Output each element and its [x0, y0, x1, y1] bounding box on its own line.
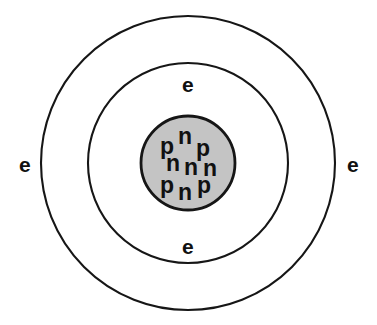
neutron-label: n	[178, 125, 192, 148]
electron-label-bottom: e	[182, 236, 194, 257]
proton-label: p	[197, 174, 211, 197]
proton-label: p	[160, 174, 174, 197]
neutron-label: n	[184, 156, 198, 179]
electron-label-top: e	[182, 74, 194, 95]
bohr-atom-diagram: eeee pnpnnnpnp	[0, 0, 377, 325]
electron-label-right: e	[347, 154, 359, 175]
electron-label-left: e	[19, 154, 31, 175]
neutron-label: n	[178, 181, 192, 204]
